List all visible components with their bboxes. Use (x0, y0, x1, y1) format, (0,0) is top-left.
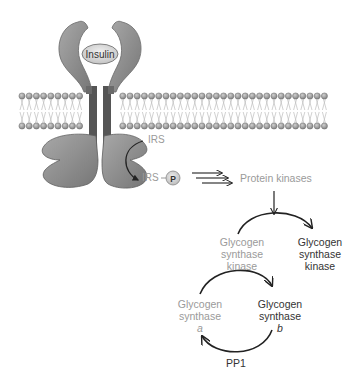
glycogen-synthase-a-label: Glycogen synthase a (166, 298, 234, 334)
protein-kinases-label: Protein kinases (240, 172, 312, 184)
cell-membrane (19, 93, 328, 129)
insulin-label: Insulin (86, 49, 115, 60)
gs-a-to-b-arrow (200, 270, 272, 294)
kinase-domain-left (42, 134, 98, 187)
multi-step-arrows (192, 173, 232, 183)
irs-p-label: IRS (142, 172, 159, 183)
irs-phosphorylated: IRS P (142, 171, 180, 185)
glycogen-synthase-b-label: Glycogen synthase b (246, 298, 314, 334)
gsk-inactive-label: Glycogen synthase kinase (208, 236, 276, 272)
gsk-conversion-arrow (238, 213, 312, 234)
insulin-molecule: Insulin (82, 44, 118, 64)
irs-label: IRS (148, 134, 165, 145)
gsk-active-label: Glycogen synthase kinase (286, 236, 349, 272)
pp1-label: PP1 (216, 357, 256, 369)
svg-text:P: P (170, 174, 176, 184)
